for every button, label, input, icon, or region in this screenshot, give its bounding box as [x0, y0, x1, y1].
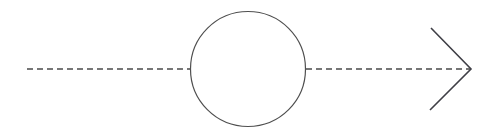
- canvas-background: [0, 0, 493, 133]
- diagram-canvas: [0, 0, 493, 133]
- diagram-svg: [0, 0, 493, 133]
